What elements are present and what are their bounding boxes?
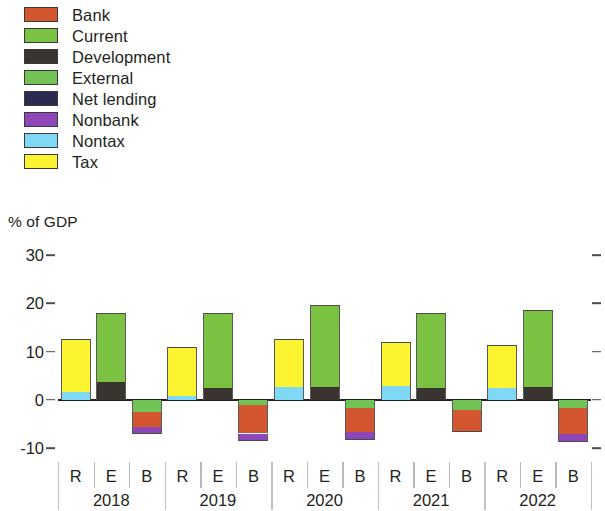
bar-segment-external <box>345 400 375 408</box>
bar-2022-E <box>523 248 553 460</box>
bar-segment-nonbank <box>558 434 588 442</box>
bar-segment-nontax <box>487 388 517 400</box>
bar-2020-B <box>345 248 375 460</box>
legend-swatch-icon <box>24 70 58 85</box>
legend-item-label: Development <box>72 49 170 65</box>
bar-segment-current <box>96 313 126 383</box>
bar-segment-bank <box>452 410 482 430</box>
bar-segment-tax <box>167 347 197 396</box>
x-axis-separator <box>271 462 272 510</box>
x-axis-separator <box>58 462 59 510</box>
bar-segment-bank <box>345 408 375 432</box>
x-axis-bar-label: B <box>355 467 366 486</box>
bar-2019-R <box>167 248 197 460</box>
bar-segment-nontax <box>167 396 197 399</box>
bar-2022-R <box>487 248 517 460</box>
bar-segment-development <box>96 382 126 399</box>
x-axis-bar-label: E <box>319 467 330 486</box>
y-axis-tick-label: 0 <box>35 390 44 409</box>
x-axis-bar-label: R <box>176 467 188 486</box>
legend-swatch-icon <box>24 112 58 127</box>
bar-segment-tax <box>274 339 304 387</box>
legend-item-label: External <box>72 70 133 86</box>
y-axis-tick-mark-right <box>592 399 601 401</box>
bar-2020-E <box>310 248 340 460</box>
bar-segment-nontax <box>274 387 304 400</box>
y-axis-tick-mark-right <box>592 351 601 353</box>
x-axis-group-label: 2020 <box>306 491 343 510</box>
x-axis-group-label: 2019 <box>200 491 237 510</box>
legend-item-label: Bank <box>72 7 110 23</box>
legend-item-label: Net lending <box>72 91 157 107</box>
bar-segment-nonbank <box>132 427 162 434</box>
bar-2021-R <box>381 248 411 460</box>
y-axis-tick-label: 30 <box>26 246 44 265</box>
legend-item: Current <box>24 25 344 46</box>
bar-segment-current <box>523 310 553 388</box>
legend-item: External <box>24 67 344 88</box>
bar-2018-R <box>61 248 91 460</box>
x-axis-bar-label: R <box>70 467 82 486</box>
x-axis-separator <box>378 462 379 510</box>
x-axis-bar-label: E <box>212 467 223 486</box>
bar-segment-external <box>452 400 482 411</box>
legend-item: Nontax <box>24 130 344 151</box>
y-axis-tick-mark-right <box>592 447 601 449</box>
legend-item: Development <box>24 46 344 67</box>
y-axis-tick-label: 10 <box>26 342 44 361</box>
x-axis-group-label: 2022 <box>519 491 556 510</box>
x-axis-bar-label: R <box>283 467 295 486</box>
x-axis-group-label: 2018 <box>93 491 130 510</box>
x-axis-bar-label: R <box>496 467 508 486</box>
y-axis-tick-mark <box>46 399 55 401</box>
legend-item: Net lending <box>24 88 344 109</box>
x-axis-bar-label: E <box>426 467 437 486</box>
y-axis-tick-mark <box>46 303 55 305</box>
legend-swatch-icon <box>24 133 58 148</box>
bar-segment-development <box>310 387 340 400</box>
bar-segment-bank <box>238 405 268 433</box>
x-axis-bar-label: B <box>461 467 472 486</box>
x-axis-separator <box>413 462 414 488</box>
x-axis-separator <box>307 462 308 488</box>
x-axis-separator <box>449 462 450 488</box>
legend-swatch-icon <box>24 7 58 22</box>
y-axis-tick-label: -10 <box>20 438 44 457</box>
bar-segment-development <box>416 388 446 400</box>
chart-plot-area: 3020100-10 REB2018REB2019REB2020REB2021R… <box>0 248 605 511</box>
x-axis-separator <box>555 462 556 488</box>
bar-segment-current <box>416 313 446 388</box>
bar-segment-nontax <box>381 386 411 400</box>
x-axis-separator <box>165 462 166 510</box>
y-axis-tick-mark <box>46 254 55 256</box>
legend-item: Nonbank <box>24 109 344 130</box>
bar-2021-B <box>452 248 482 460</box>
y-axis-tick-mark-right <box>592 303 601 305</box>
bar-segment-nonbank <box>345 432 375 440</box>
x-axis-bar-label: E <box>532 467 543 486</box>
bar-segment-tax <box>487 345 517 388</box>
bar-segment-nontax <box>61 392 91 400</box>
x-axis-separator <box>236 462 237 488</box>
legend: BankCurrentDevelopmentExternalNet lendin… <box>24 4 344 172</box>
x-axis-bar-label: R <box>390 467 402 486</box>
x-axis-group-label: 2021 <box>413 491 450 510</box>
legend-swatch-icon <box>24 28 58 43</box>
bar-segment-tax <box>61 339 91 392</box>
y-axis-tick-mark <box>46 351 55 353</box>
legend-swatch-icon <box>24 154 58 169</box>
x-axis-separator <box>342 462 343 488</box>
y-axis-tick-mark-right <box>592 254 601 256</box>
x-axis-separator <box>200 462 201 488</box>
bars-container <box>58 248 591 460</box>
x-axis-bar-label: B <box>141 467 152 486</box>
bar-segment-current <box>310 305 340 387</box>
bar-segment-external <box>132 400 162 413</box>
bar-segment-nonbank <box>452 431 482 432</box>
legend-item-label: Nontax <box>72 133 125 149</box>
legend-item: Tax <box>24 151 344 172</box>
bar-segment-bank <box>132 412 162 426</box>
y-axis-title: % of GDP <box>8 213 78 231</box>
x-axis-separator <box>484 462 485 510</box>
x-axis-bar-label: B <box>568 467 579 486</box>
